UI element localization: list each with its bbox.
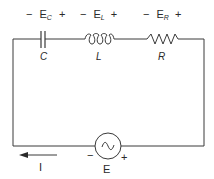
voltage-symbol: E	[94, 8, 101, 20]
source-minus-sign: −	[87, 150, 93, 161]
plus-sign: +	[111, 8, 117, 20]
voltage-label-inductor: − EL +	[80, 9, 117, 21]
source-plus-sign: +	[121, 152, 127, 163]
voltage-label-resistor: − ER +	[143, 9, 181, 21]
voltage-label-capacitor: − EC +	[26, 9, 65, 21]
minus-sign: −	[80, 8, 86, 20]
minus-sign: −	[26, 8, 32, 20]
circuit-diagram	[0, 0, 214, 179]
capacitor-symbol	[41, 31, 45, 48]
inductor-label: L	[96, 52, 102, 62]
minus-sign: −	[143, 8, 149, 20]
current-label: I	[39, 162, 42, 173]
voltage-symbol: E	[40, 8, 47, 20]
voltage-subscript: L	[101, 14, 105, 21]
voltage-subscript: C	[47, 14, 52, 21]
voltage-symbol: E	[157, 8, 164, 20]
voltage-subscript: R	[164, 14, 169, 21]
plus-sign: +	[59, 8, 65, 20]
plus-sign: +	[175, 8, 181, 20]
resistor-symbol	[147, 34, 180, 44]
source-label: E	[103, 164, 110, 175]
inductor-symbol	[85, 34, 114, 45]
capacitor-label: C	[40, 52, 47, 62]
current-arrow-head-icon	[19, 152, 28, 158]
resistor-label: R	[158, 52, 165, 62]
sine-wave-icon	[102, 142, 114, 149]
